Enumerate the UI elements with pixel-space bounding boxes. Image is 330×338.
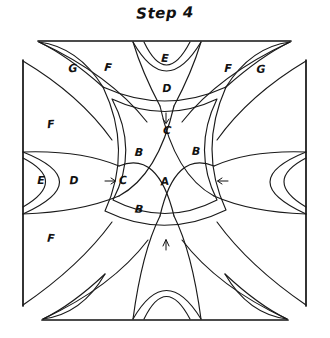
petal-top-right-side <box>174 42 201 106</box>
region-label-center-upper-right: B <box>192 145 201 158</box>
petal-bottom-right-side <box>174 216 201 319</box>
region-label-left-lower-panel: F <box>47 232 56 245</box>
petal-bottom-left-side <box>133 216 160 319</box>
region-label-top-left-sliver: G <box>68 62 78 76</box>
region-label-top-band-tip: C <box>162 124 171 138</box>
arrow-up-icon <box>163 240 169 251</box>
bottom-petal-group <box>133 216 201 319</box>
region-label-top-left-panel: F <box>104 61 113 75</box>
arc-right-lower-sweep <box>217 222 306 305</box>
step-4-construction-diagram: GFEFGDFCBBEDCABF <box>0 0 330 338</box>
petal-top-left-side <box>133 42 160 106</box>
arc-left-lower-sweep <box>23 222 112 305</box>
region-label-left-upper-panel: F <box>47 118 56 132</box>
arrow-left-icon <box>218 178 229 184</box>
region-label-top-right-sliver: G <box>256 63 265 76</box>
arc-divider-bottom <box>133 291 201 320</box>
arc-bl-to-center <box>43 240 148 319</box>
sliver-br-inner <box>225 274 287 319</box>
arrow-right-icon <box>105 178 116 184</box>
region-label-center: A <box>159 175 170 189</box>
arc-cross-bottom-to-right <box>160 163 214 216</box>
band-inner-edge <box>112 99 217 214</box>
region-label-center-lower-left: B <box>134 203 143 217</box>
region-label-left-inner-lens: D <box>69 174 79 187</box>
arc-cap-bottom <box>144 297 190 320</box>
petal-right-bottom-side <box>214 196 306 214</box>
region-label-top-center-outer: E <box>161 52 170 65</box>
arc-left-upper-sweep <box>23 61 112 140</box>
sliver-bl-outer <box>43 274 105 319</box>
curved-band-ring <box>103 87 226 225</box>
right-petal-group <box>214 152 306 214</box>
arc-cap-right <box>284 158 306 207</box>
region-label-left-band-tip: C <box>118 174 127 188</box>
sliver-br-outer <box>225 274 287 319</box>
region-label-center-upper-left: B <box>134 146 143 160</box>
region-labels: GFEFGDFCBBEDCABF <box>37 52 265 245</box>
region-label-top-center-inner: D <box>162 82 172 95</box>
diagram-page: Step 4 <box>0 0 330 338</box>
region-label-top-right-panel: F <box>224 62 232 75</box>
region-label-left-outer-lens: E <box>37 174 45 187</box>
sliver-bl-inner <box>43 274 105 319</box>
